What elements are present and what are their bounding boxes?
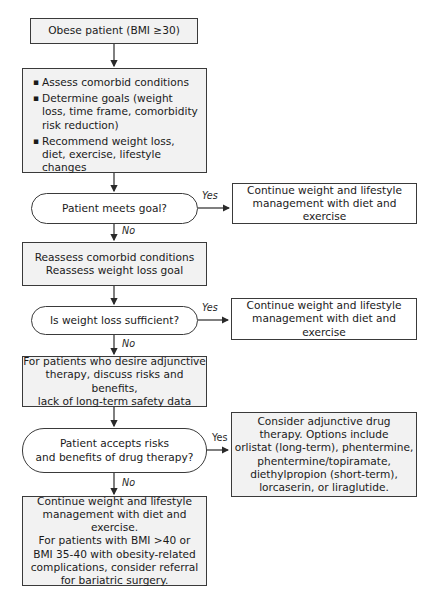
no-label: No [122, 477, 135, 488]
continue-box-2: Continue weight and lifestyle management… [231, 298, 417, 340]
assess-box: Assess comorbid conditions Determine goa… [22, 68, 207, 173]
no-label: No [122, 225, 135, 236]
decision-weight-loss-text: Is weight loss sufficient? [50, 314, 179, 327]
continue-box-1: Continue weight and lifestyle management… [232, 183, 417, 224]
adjunctive-text: For patients who desire adjunctive thera… [23, 355, 206, 408]
adjunctive-box: For patients who desire adjunctive thera… [22, 356, 207, 407]
reassess-box: Reassess comorbid conditions Reassess we… [22, 242, 207, 286]
decision-weight-loss-sufficient: Is weight loss sufficient? [31, 306, 198, 335]
start-box: Obese patient (BMI ≥30) [30, 18, 198, 44]
drug-therapy-text: Consider adjunctive drug therapy. Option… [235, 415, 414, 494]
final-box: Continue weight and lifestyle management… [22, 496, 207, 586]
yes-label: Yes [202, 190, 218, 201]
yes-label: Yes [202, 302, 218, 313]
decision-meets-goal: Patient meets goal? [31, 193, 198, 224]
decision-accepts-risks: Patient accepts risks and benefits of dr… [22, 428, 207, 473]
assess-item: Determine goals (weight loss, time frame… [33, 92, 198, 132]
continue-text-2: Continue weight and lifestyle management… [232, 299, 416, 339]
assess-item: Assess comorbid conditions [33, 76, 198, 89]
start-text: Obese patient (BMI ≥30) [48, 24, 180, 37]
continue-text-1: Continue weight and lifestyle management… [233, 184, 416, 224]
no-label: No [122, 338, 135, 349]
decision-accepts-risks-text: Patient accepts risks and benefits of dr… [36, 437, 194, 463]
yes-label: Yes [212, 432, 228, 443]
reassess-text: Reassess comorbid conditions Reassess we… [35, 251, 195, 277]
decision-meets-goal-text: Patient meets goal? [62, 202, 167, 215]
assess-item: Recommend weight loss, diet, exercise, l… [33, 135, 198, 175]
final-text: Continue weight and lifestyle management… [23, 495, 206, 587]
drug-therapy-box: Consider adjunctive drug therapy. Option… [231, 412, 417, 497]
